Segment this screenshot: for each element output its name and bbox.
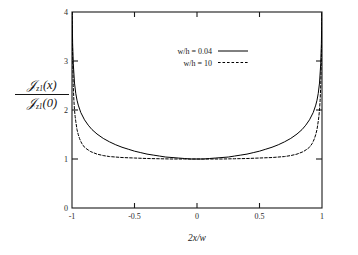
chart-series-group [72, 12, 322, 159]
x-axis-tick-labels: -1-0.500.51 [69, 212, 324, 221]
figure-container: 𝒥z1(x) 𝒥z1(0) -1-0.500.51 01234 2x/w w/h… [0, 0, 358, 255]
x-tick-label: 0 [195, 212, 199, 221]
series-line-1 [72, 12, 322, 159]
y-axis-ticks [72, 61, 322, 159]
chart-legend: w/h = 0.04w/h = 10 [177, 47, 248, 68]
script-j-icon: 𝒥 [27, 95, 36, 110]
plot-frame [72, 12, 322, 208]
chart-plot-area: -1-0.500.51 01234 2x/w w/h = 0.04w/h = 1… [0, 0, 358, 255]
y-tick-label: 0 [64, 204, 68, 213]
y-tick-label: 4 [64, 8, 68, 17]
y-axis-tick-labels: 01234 [64, 8, 68, 213]
y-axis-label: 𝒥z1(x) 𝒥z1(0) [14, 78, 70, 110]
y-den-subscript: z1 [36, 101, 43, 110]
x-tick-label: 1 [320, 212, 324, 221]
y-tick-label: 3 [64, 57, 68, 66]
y-tick-label: 1 [64, 155, 68, 164]
x-tick-label: 0.5 [255, 212, 265, 221]
y-axis-label-numerator: 𝒥z1(x) [14, 78, 70, 94]
y-num-arg: (x) [43, 78, 57, 92]
y-num-subscript: z1 [36, 84, 43, 93]
x-tick-label: -1 [69, 212, 76, 221]
x-axis-title: 2x/w [188, 233, 207, 243]
series-line-0 [72, 12, 322, 159]
y-axis-label-denominator: 𝒥z1(0) [14, 95, 70, 111]
x-axis-ticks [135, 12, 260, 208]
script-j-icon: 𝒥 [27, 77, 36, 92]
y-den-arg: (0) [43, 96, 58, 110]
legend-label: w/h = 10 [183, 59, 212, 68]
x-tick-label: -0.5 [128, 212, 141, 221]
legend-label: w/h = 0.04 [177, 47, 212, 56]
